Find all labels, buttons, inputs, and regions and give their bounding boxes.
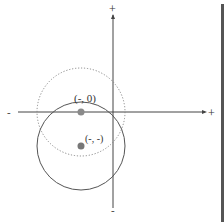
- point-label-minus-minus: (-, -): [85, 134, 103, 144]
- x-negative-label: -: [7, 107, 11, 118]
- x-axis-arrow-icon: [202, 110, 207, 114]
- coordinate-diagram: + - - + (-, 0) (-, -): [0, 0, 224, 222]
- y-positive-label: +: [109, 3, 116, 15]
- point-label-minus-zero: (-, 0): [74, 93, 96, 104]
- point-minus-zero: [78, 109, 85, 116]
- diagram-canvas: [0, 0, 224, 222]
- x-positive-label: +: [208, 107, 215, 119]
- y-negative-label: -: [111, 205, 115, 216]
- right-border: [221, 4, 224, 222]
- point-minus-minus: [78, 143, 85, 150]
